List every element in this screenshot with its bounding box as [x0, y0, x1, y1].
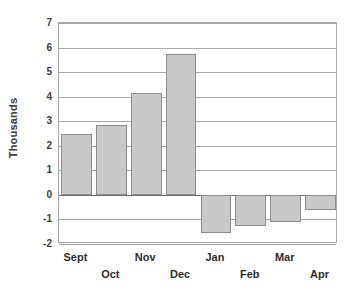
y-axis-tick: -1: [30, 213, 52, 224]
y-axis-tick: -2: [30, 238, 52, 249]
y-axis-tick: 7: [30, 17, 52, 28]
y-axis-tick: 1: [30, 164, 52, 175]
y-axis-tick: 6: [30, 41, 52, 52]
x-axis-tick: Mar: [275, 251, 295, 263]
x-axis-tick: Jan: [205, 251, 224, 263]
bar: [235, 195, 266, 226]
bar: [61, 134, 92, 195]
bar: [131, 93, 162, 195]
y-axis-tick: 0: [30, 188, 52, 199]
bar: [270, 195, 301, 222]
bar: [201, 195, 232, 233]
plot-area: [58, 22, 337, 243]
bar: [166, 54, 197, 195]
x-axis-tick: Apr: [310, 268, 329, 280]
bar: [305, 195, 336, 210]
y-axis-tick: 2: [30, 139, 52, 150]
y-axis-tick: 4: [30, 90, 52, 101]
x-axis-tick: Oct: [101, 268, 119, 280]
x-axis-tick: Dec: [170, 268, 190, 280]
y-axis-tick: 3: [30, 115, 52, 126]
y-axis-title: Thousands: [2, 0, 24, 255]
gridline: [59, 244, 336, 245]
x-axis-tick: Nov: [135, 251, 156, 263]
bars-layer: [59, 23, 336, 242]
y-axis-tick: 5: [30, 66, 52, 77]
y-axis-title-label: Thousands: [7, 97, 19, 157]
bar-chart: Thousands 76543210-1-2 SeptOctNovDecJanF…: [0, 0, 351, 296]
x-axis-tick: Sept: [64, 251, 88, 263]
x-axis-tick: Feb: [240, 268, 260, 280]
bar: [96, 125, 127, 195]
